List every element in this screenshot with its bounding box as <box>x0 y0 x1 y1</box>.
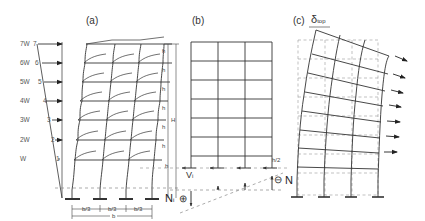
dim-h-4: h <box>162 105 165 111</box>
load-2w: 2W <box>20 137 30 144</box>
dim-bay-2: b/3 <box>108 206 116 212</box>
floor-7: 7 <box>33 41 37 48</box>
shear-subscript: i <box>192 173 193 179</box>
dim-h-3: h <box>162 86 165 92</box>
dim-total-width: b <box>110 213 117 219</box>
floor-1: 1 <box>56 156 60 163</box>
floor-2: 2 <box>51 137 55 144</box>
panel-a-frame <box>55 37 180 199</box>
panel-c-label: (c) <box>293 16 305 26</box>
panel-b-frame <box>191 42 272 168</box>
dim-total-height: H <box>171 117 175 123</box>
dim-half-story: h/2 <box>272 157 280 163</box>
load-6w: 6W <box>20 60 30 67</box>
dim-h-1: h <box>162 48 165 54</box>
shear-label: Vi <box>186 171 193 180</box>
axial-left-subscript: i <box>173 197 174 203</box>
panel-c-deformed-frame <box>297 30 389 197</box>
panel-c-original-frame <box>298 40 378 195</box>
load-5w: 5W <box>20 79 30 86</box>
floor-4: 4 <box>43 98 47 105</box>
minus-icon: ⊖ <box>274 175 282 185</box>
dim-h-7: h <box>165 163 168 169</box>
load-3w: 3W <box>20 117 30 124</box>
panel-b-label: (b) <box>192 16 204 26</box>
floor-6: 6 <box>35 60 39 67</box>
dim-bay-3: b/3 <box>134 206 142 212</box>
load-7w: 7W <box>20 41 30 48</box>
panel-a-label: (a) <box>86 16 98 26</box>
floor-5: 5 <box>38 79 42 86</box>
load-w: W <box>20 156 26 163</box>
plus-icon: ⊕ <box>179 194 187 204</box>
dim-h-5: h <box>162 124 165 130</box>
dim-h-2: h <box>162 67 165 73</box>
delta-subscript: top <box>317 18 325 24</box>
panel-c-load-arrows <box>384 56 407 152</box>
dim-h-6: h <box>162 143 165 149</box>
axial-left-symbol: N <box>165 192 173 204</box>
axial-left-label: Ni <box>165 193 174 204</box>
delta-top-label: δtop <box>311 14 325 25</box>
frame-diagram <box>0 0 425 221</box>
floor-3: 3 <box>47 117 51 124</box>
axial-force-arrows <box>191 176 272 206</box>
dim-bay-1: b/3 <box>82 206 90 212</box>
axial-right-label: N <box>285 175 293 186</box>
load-4w: 4W <box>20 98 30 105</box>
